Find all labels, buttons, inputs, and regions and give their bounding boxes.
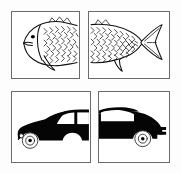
car-rear-drawing [99, 92, 169, 162]
panel-car-rear[interactable] [98, 91, 170, 163]
fish-scale-hatching [44, 27, 78, 64]
panel-fish-head[interactable] [11, 11, 80, 79]
fish-tail-drawing [89, 12, 169, 78]
panel-fish-tail[interactable] [88, 11, 170, 79]
car-front-drawing [12, 92, 90, 162]
car-front-side-window [77, 112, 89, 124]
fish-eye [31, 35, 35, 38]
fish-scale-hatching [91, 28, 138, 63]
fish-head-drawing [12, 12, 79, 78]
car-rear-bumper [159, 127, 166, 135]
panel-car-front[interactable] [11, 91, 91, 163]
stimulus-sheet [0, 0, 181, 173]
